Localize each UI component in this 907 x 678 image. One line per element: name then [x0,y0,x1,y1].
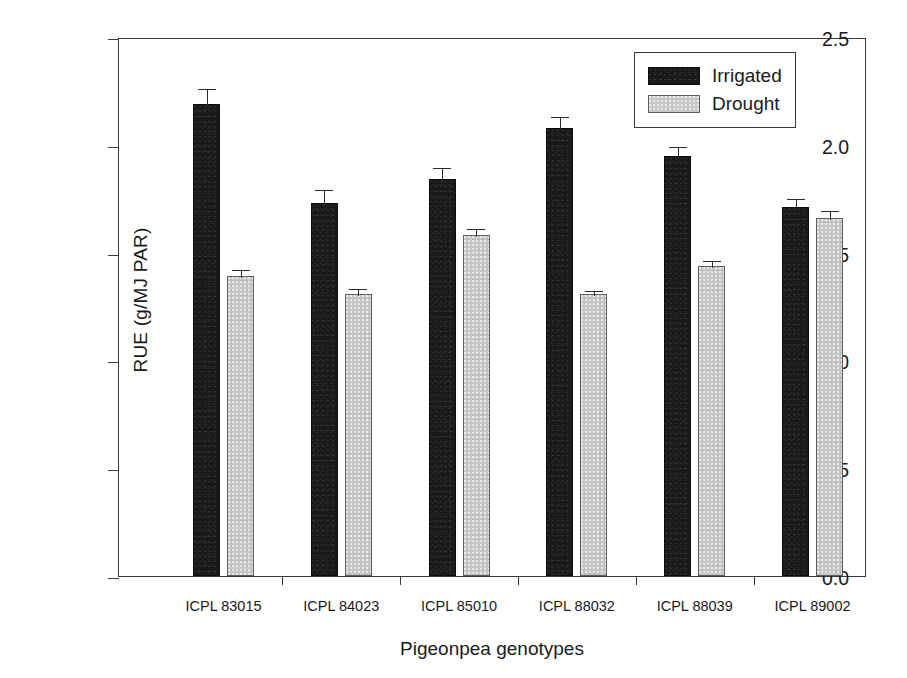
error-bar-cap [669,147,687,148]
error-bar-stem [560,117,561,130]
legend-label: Drought [712,93,780,115]
bar-drought [463,235,490,576]
figure-bar-chart-rue: RUE (g/MJ PAR) 0.00.51.01.52.02.5 ICPL 8… [0,0,907,678]
legend-item-drought: Drought [648,90,782,118]
legend-item-irrigated: Irrigated [648,62,782,90]
y-tick-mark [108,470,119,471]
error-bar-cap [703,261,721,262]
bar-drought [698,266,725,576]
y-axis-title: RUE (g/MJ PAR) [130,150,152,450]
x-tick-mark [518,576,519,585]
y-tick-label: 2.0 [822,135,849,158]
x-tick-label: ICPL 84023 [303,598,379,614]
error-bar-cap [787,199,805,200]
bar-irrigated [664,156,691,576]
error-bar-stem [241,270,242,279]
y-tick-mark [108,362,119,363]
y-tick-mark [108,147,119,148]
x-tick-label: ICPL 89002 [774,598,850,614]
x-tick-mark [400,576,401,585]
error-bar-cap [433,168,451,169]
legend-swatch-drought [648,95,700,113]
error-bar-stem [442,168,443,181]
chart-legend: IrrigatedDrought [634,52,796,128]
error-bar-stem [324,190,325,205]
x-tick-label: ICPL 83015 [185,598,261,614]
legend-swatch-irrigated [648,67,700,85]
bar-drought [580,294,607,576]
error-bar-cap [315,190,333,191]
bar-irrigated [193,104,220,576]
bar-irrigated [311,203,338,576]
bar-drought [816,218,843,576]
error-bar-cap [551,117,569,118]
error-bar-cap [585,291,603,292]
x-tick-mark [754,576,755,585]
bar-irrigated [429,179,456,576]
bar-irrigated [546,128,573,576]
x-axis-title: Pigeonpea genotypes [118,638,866,660]
error-bar-stem [207,89,208,106]
x-tick-mark [636,576,637,585]
x-tick-mark [282,576,283,585]
bar-drought [227,276,254,576]
x-tick-label: ICPL 88032 [539,598,615,614]
error-bar-stem [476,229,477,238]
error-bar-stem [796,199,797,210]
error-bar-cap [232,270,250,271]
bar-drought [345,294,372,576]
error-bar-cap [349,289,367,290]
legend-label: Irrigated [712,65,782,87]
y-tick-mark [108,39,119,40]
y-tick-mark [108,578,119,579]
error-bar-cap [821,211,839,212]
x-tick-label: ICPL 88039 [657,598,733,614]
bar-irrigated [782,207,809,576]
x-tick-label: ICPL 85010 [421,598,497,614]
error-bar-stem [830,211,831,220]
error-bar-cap [198,89,216,90]
error-bar-stem [678,147,679,158]
plot-area: RUE (g/MJ PAR) 0.00.51.01.52.02.5 ICPL 8… [118,38,866,577]
error-bar-cap [467,229,485,230]
y-tick-label: 2.5 [822,28,849,51]
y-tick-mark [108,255,119,256]
